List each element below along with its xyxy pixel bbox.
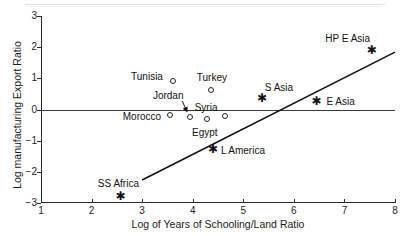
x-tick-label: 3 <box>139 206 145 216</box>
data-point-hp-e-asia <box>367 45 377 55</box>
y-tick-mark <box>37 203 41 204</box>
y-tick-label: 2 <box>31 42 37 52</box>
x-tick-label: 7 <box>342 206 348 216</box>
x-tick-label: 1 <box>38 206 44 216</box>
y-tick-label: 1 <box>31 73 37 83</box>
data-point-turkey <box>208 87 214 93</box>
y-axis-title: Log manufacturing Export Ratio <box>11 25 23 205</box>
point-label-morocco: Morocco <box>123 111 161 122</box>
previous-figure-artifact-secondary <box>30 6 380 7</box>
data-point-s-asia <box>257 93 267 103</box>
x-tick-label: 6 <box>291 206 297 216</box>
y-tick-label: 3 <box>31 11 37 21</box>
x-tick-label: 2 <box>89 206 95 216</box>
point-label-l-america: L America <box>221 145 265 156</box>
data-point-e-asia <box>312 96 322 106</box>
x-axis-title: Log of Years of Schooling/Land Ratio <box>41 218 395 230</box>
y-tick-label: −1 <box>26 136 37 146</box>
y-tick-label: −3 <box>26 198 37 208</box>
point-label-tunisia: Tunisia <box>131 71 163 82</box>
jordan-leader-line <box>41 16 395 203</box>
x-tick-mark <box>193 199 194 203</box>
data-point-egypt <box>204 116 210 122</box>
data-point-jordan <box>187 114 193 120</box>
point-label-s-asia: S Asia <box>265 81 293 92</box>
y-tick-mark <box>37 110 41 111</box>
point-label-egypt: Egypt <box>192 126 218 137</box>
point-label-ss-africa: SS Africa <box>98 177 139 188</box>
x-tick-mark <box>294 199 295 203</box>
scatter-chart-figure: Log manufacturing Export Ratio 3210−1−2−… <box>0 0 412 236</box>
y-tick-label: 0 <box>31 105 37 115</box>
x-tick-mark <box>243 199 244 203</box>
y-tick-mark <box>37 16 41 17</box>
previous-figure-artifact <box>25 4 385 5</box>
x-tick-mark <box>41 199 42 203</box>
point-label-jordan: Jordan <box>153 89 184 100</box>
x-tick-label: 4 <box>190 206 196 216</box>
data-point-morocco <box>167 112 173 118</box>
x-tick-mark <box>142 199 143 203</box>
plot-area: 3210−1−2−312345678TunisiaTurkeyJordanMor… <box>41 16 395 203</box>
x-tick-mark <box>395 199 396 203</box>
data-point-syria <box>222 113 228 119</box>
x-tick-label: 8 <box>392 206 398 216</box>
data-point-ss-africa <box>115 191 125 201</box>
data-point-l-america <box>208 144 218 154</box>
y-tick-mark <box>37 47 41 48</box>
y-tick-mark <box>37 172 41 173</box>
point-label-turkey: Turkey <box>197 72 227 83</box>
y-tick-mark <box>37 78 41 79</box>
point-label-hp-e-asia: HP E Asia <box>325 32 370 43</box>
point-label-syria: Syria <box>195 102 218 113</box>
x-tick-mark <box>344 199 345 203</box>
y-tick-mark <box>37 141 41 142</box>
y-tick-label: −2 <box>26 167 37 177</box>
point-label-e-asia: E Asia <box>326 96 354 107</box>
data-point-tunisia <box>170 78 176 84</box>
x-tick-label: 5 <box>241 206 247 216</box>
x-tick-mark <box>92 199 93 203</box>
